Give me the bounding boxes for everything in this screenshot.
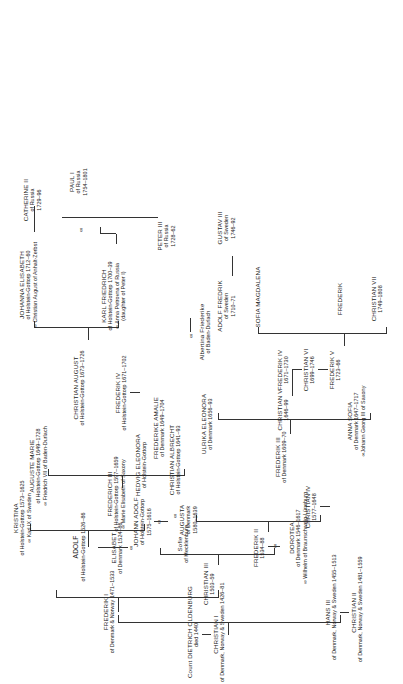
connector-f4hg-karl	[130, 392, 140, 393]
node-adolf-fredrik-name: ADOLF FREDRIK	[216, 276, 223, 336]
node-christian7-name: CHRISTIAN VII	[370, 272, 377, 326]
node-adolf-dates: of Holstein-Gottorp 1526–86	[80, 506, 86, 588]
node-christian4-dates: 1577–1648	[311, 482, 317, 532]
node-frederik2-dates: 1534–88	[259, 524, 265, 572]
bracket-f5-down	[344, 333, 386, 334]
node-adolf-fredrik-dates: 1710–71	[230, 276, 236, 336]
node-karl-friedrich: KARL FRIEDRICH of Holstein-Gottorp 1700–…	[100, 244, 126, 348]
node-christian3: CHRISTIAN III 1503–59	[202, 560, 216, 608]
node-adolf: ADOLF of Holstein-Gottorp 1526–86	[72, 506, 86, 588]
connector-dietrich-christian1	[202, 634, 211, 635]
node-albertina-place: of Baden-Durlach	[205, 296, 211, 368]
node-adolf-fredrik: ADOLF FREDRIK of Sweden 1710–71	[216, 276, 236, 336]
node-dietrich-name: Count DIETRICH OLDENBURG	[186, 592, 193, 678]
node-frederik2: FREDERIK II 1534–88	[252, 524, 266, 572]
connector-johannadolf-augusta	[154, 521, 168, 522]
node-kristina-dates: of Holstein-Gottorp 1573–1625	[19, 470, 25, 566]
node-christian4: CHRISTIAN IV 1577–1648	[304, 482, 318, 532]
genealogy-canvas: Count DIETRICH OLDENBURG died 1440 CHRIS…	[0, 0, 403, 684]
bracket-f5-up	[258, 333, 344, 334]
node-johanna-elisabeth-name: JOHANNA ELISABETH	[18, 232, 25, 338]
node-christian-august-name: CHRISTIAN AUGUST	[72, 340, 79, 436]
bracket-fh3-top-arm	[48, 469, 49, 476]
node-catherine2-dates: 1729–96	[36, 172, 42, 228]
node-ulrika-eleonora-dates: of Denmark 1656–93	[207, 380, 213, 468]
connector-c6-f5	[318, 369, 328, 370]
node-frederike-amalie-dates: of Denmark 1649–1704	[159, 382, 165, 474]
bracket-c1-up	[118, 622, 228, 623]
connector-c3-out	[218, 555, 219, 565]
node-frederike-amalie-name: FREDERIKE AMALIE	[152, 382, 159, 474]
node-augusta-dates: 1580–1639	[192, 496, 198, 544]
node-ulrika-eleonora: ULRIKA ELEONORA of Denmark 1656–93	[200, 380, 214, 468]
node-frederich3-hg-dates: of Holstein-Gottorp 1597–1659	[113, 444, 119, 544]
node-christian6-name: CHRISTIAN VI	[302, 346, 309, 394]
bracket-f1-bottom-arm	[218, 590, 219, 598]
connector-hans3-christian2	[340, 612, 349, 613]
connector-fh3-out	[122, 476, 123, 488]
node-hedvig-eleonora: HEDVIG ELEONORA of Holstein-Gottorp	[134, 422, 148, 508]
node-johanna-elisabeth-spouse: ∞ Christian August of Anhalt-Zerbst	[32, 232, 38, 338]
node-frederik5: FREDERIK V 1723–66	[328, 346, 342, 394]
connector-ca-out	[88, 328, 89, 340]
node-frederik5-name: FREDERIK V	[328, 346, 335, 394]
node-sofia-magdalena: SOFIA MAGDALENA	[254, 258, 261, 336]
node-christian2-name: CHRISTIAN II	[350, 563, 357, 662]
node-frederich3-hg-spouse: ∞ Marie Elisabeth of Saxony	[120, 444, 126, 544]
node-gustav3-dates: 1746–92	[230, 202, 236, 254]
node-hedvig-eleonora-name: HEDVIG ELEONORA	[134, 422, 141, 508]
node-auguste-marie-dates: of Holstein-Gottorp 1649–1728	[35, 414, 41, 518]
node-gustav3-name: GUSTAV III	[216, 202, 223, 254]
connector-peter-catherine	[62, 217, 158, 218]
bracket-f5-bottom-arm	[386, 327, 387, 334]
node-frederik-son-name: FREDERIK	[336, 272, 343, 326]
node-frederik5-dates: 1723–66	[335, 346, 341, 394]
bracket-ca-up	[34, 327, 88, 328]
bracket-f2-bottom-arm	[320, 515, 321, 522]
marriage-symbol-albertina: ∞	[188, 334, 194, 338]
node-christian2-dates: of Denmark, Norway & Sweden 1481–1559	[357, 563, 363, 662]
node-christian-august-dates: of Holstein-Gottorp 1673–1726	[79, 340, 85, 436]
bracket-kf-up	[100, 233, 116, 234]
bracket-c1-top-arm	[118, 615, 119, 623]
node-christian7: CHRISTIAN VII 1749–1808	[370, 272, 384, 326]
connector-frederik2-sofie	[268, 546, 280, 547]
node-anna-sofia-name: ANNA SOFIA	[346, 372, 353, 470]
node-auguste-marie-name: AUGUSTE MARIE	[28, 414, 35, 518]
node-christian2: CHRISTIAN II of Denmark, Norway & Sweden…	[350, 563, 364, 662]
node-auguste-marie-spouse: ∞ Friedrich VII of Baden-Durlach	[42, 414, 48, 518]
bracket-fh3-bottom-arm	[184, 469, 185, 476]
bracket-f1-top-arm	[56, 590, 57, 598]
node-sofia-magdalena-name: SOFIA MAGDALENA	[254, 258, 261, 336]
node-anna-sofia: ANNA SOFIA of Denmark 1647–1717 ∞Johann …	[346, 372, 366, 470]
node-albertina: Albertina Friederike of Baden-Durlach	[198, 296, 212, 368]
node-christian4-name: CHRISTIAN IV	[304, 482, 311, 532]
bracket-c3-top-arm	[160, 548, 161, 555]
connector-albertina	[190, 318, 191, 332]
node-kristina-name: KRISTINA	[12, 470, 19, 566]
connector-f3-out	[290, 420, 291, 434]
node-paul1: PAUL I of Russia 1754–1801	[68, 158, 88, 206]
bracket-f3-bottom-arm	[370, 413, 371, 420]
node-christian1-dates: of Denmark, Norway & Sweden 1426–81	[219, 587, 225, 682]
node-frederik4-dates: 1671–1730	[283, 346, 289, 394]
node-hans3-name: HANS III	[324, 565, 331, 660]
bracket-f2-up	[196, 521, 268, 522]
node-ulrika-eleonora-name: ULRIKA ELEONORA	[200, 380, 207, 468]
node-frederik4-hg: FREDERIK IV of Holstein-Gottorp 1671–170…	[114, 346, 128, 440]
bracket-fh3-up	[48, 475, 122, 476]
connector-c1-out	[228, 623, 229, 635]
connector-elisabet-adolf	[98, 547, 128, 548]
node-christian3-dates: 1503–59	[209, 560, 215, 608]
bracket-c1-bottom-arm	[340, 615, 341, 623]
node-anna-sofia-spouse: ∞Johann Georg III of Saxony	[360, 372, 366, 470]
node-christian-august: CHRISTIAN AUGUST of Holstein-Gottorp 167…	[72, 340, 86, 436]
node-karl-friedrich-note: (daughter of Peter I)	[120, 244, 126, 348]
node-christian-albrecht: CHRISTIAN ALBRECHT of Holstein-Gottorp 1…	[168, 412, 182, 508]
bracket-c3-bottom-arm	[274, 548, 275, 555]
node-dorotea-name: DOROTEA	[288, 488, 295, 588]
node-christian-albrecht-name: CHRISTIAN ALBRECHT	[168, 412, 175, 508]
node-christian6-dates: 1699–1746	[309, 346, 315, 394]
node-frederich3-hg: FREDERICH III of Holstein-Gottorp 1597–1…	[106, 444, 126, 544]
node-frederik4: FREDERIK IV 1671–1730	[276, 346, 290, 394]
